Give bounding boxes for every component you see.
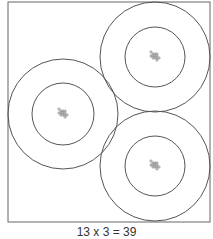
dot	[150, 160, 152, 162]
dot	[156, 59, 158, 61]
diagram	[0, 0, 213, 239]
dot	[158, 57, 160, 59]
dot	[66, 114, 68, 116]
dot	[156, 168, 158, 170]
caption: 13 x 3 = 39	[0, 225, 213, 239]
circle-group-top-right	[100, 2, 210, 112]
dot	[150, 51, 152, 53]
frame	[8, 2, 210, 222]
dot	[64, 116, 66, 118]
dot	[158, 166, 160, 168]
dot	[58, 108, 60, 110]
